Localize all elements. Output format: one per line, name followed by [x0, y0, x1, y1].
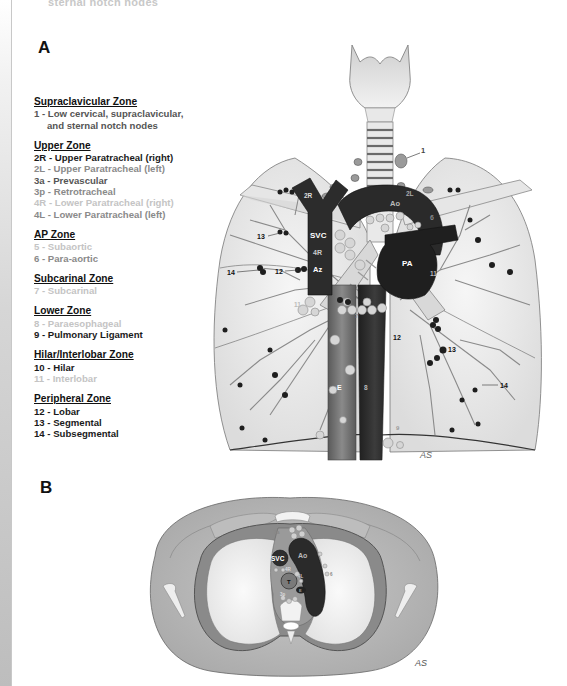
artist-signature: AS: [419, 450, 432, 460]
label-station-4r: 4R: [313, 249, 322, 256]
label-station-14-left: 14: [500, 382, 508, 389]
label-b-trachea: T: [287, 579, 291, 585]
label-b-station-4r: 4R: [285, 567, 292, 572]
label-b-station-3a: 3a: [274, 529, 280, 535]
label-b-station-4l: 4L: [298, 574, 304, 579]
label-pulmonary-artery: PA: [402, 259, 413, 268]
label-station-13-left: 13: [448, 346, 456, 353]
panel-label-b: B: [40, 478, 52, 498]
label-aorta: Ao: [390, 199, 400, 208]
page-edge-strip: [0, 0, 12, 686]
cropped-caption-text: sternal notch nodes: [48, 0, 158, 8]
label-station-12-left: 12: [393, 334, 401, 341]
label-esophagus: E: [337, 384, 342, 391]
label-svc: SVC: [310, 231, 327, 240]
label-azygos: Az: [313, 265, 322, 274]
label-b-station-3p: 3p: [280, 592, 286, 597]
label-b-svc: SVC: [271, 555, 285, 562]
right-lung-section: [207, 538, 280, 644]
label-station-12-right: 12: [275, 268, 283, 275]
label-station-11-right: 11: [294, 301, 301, 308]
coronal-thorax-illustration: 1: [200, 40, 560, 470]
label-station-2l: 2L: [406, 190, 414, 197]
larynx-thyroid: [350, 45, 411, 122]
panel-label-a: A: [38, 38, 50, 58]
label-station-1: 1: [421, 146, 425, 155]
label-station-6: 6: [430, 214, 434, 221]
artist-signature-b: AS: [414, 658, 427, 668]
label-b-esophagus: E: [299, 588, 302, 593]
axial-chest-cross-section: 3a SVC Ao 4R T 4L E 3p 6 AS: [130, 486, 450, 681]
label-station-8: 8: [364, 384, 368, 391]
label-station-2r: 2R: [304, 192, 313, 199]
label-b-aorta: Ao: [298, 552, 307, 559]
label-station-11-left: 11: [430, 270, 437, 277]
label-station-14-right: 14: [227, 269, 235, 276]
label-station-13-right: 13: [257, 233, 265, 240]
